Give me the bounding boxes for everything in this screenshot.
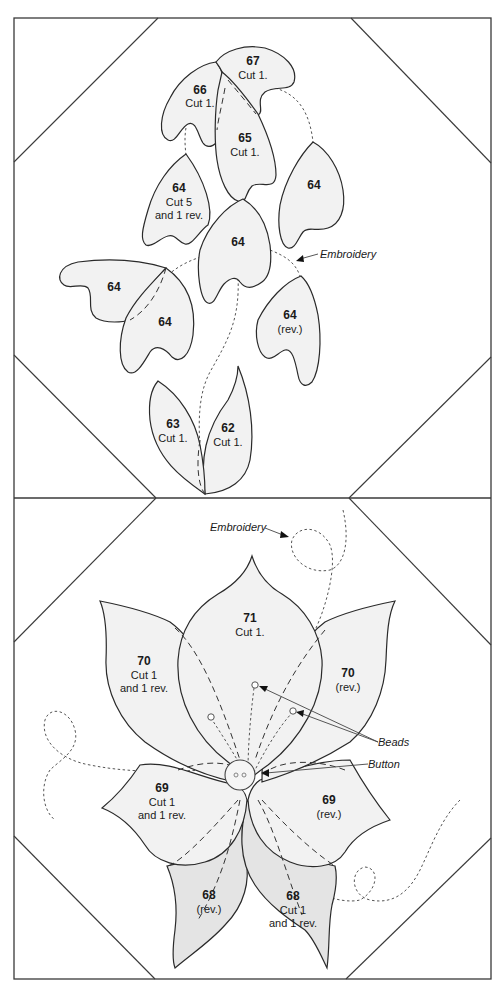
button-embellishment	[225, 760, 255, 790]
label-68-right-note2: and 1 rev.	[269, 917, 317, 929]
bottom-block: 71 Cut 1. 70 Cut 1 and 1 rev. 70 (rev.) …	[44, 510, 460, 968]
label-69-left-note2: and 1 rev.	[138, 809, 186, 821]
label-64-center: 64	[231, 235, 245, 249]
label-64-rev-number: 64	[283, 308, 297, 322]
label-69-right-number: 69	[322, 793, 336, 807]
label-62-note: Cut 1.	[213, 436, 242, 448]
label-70-left-number: 70	[137, 654, 151, 668]
label-68-right-number: 68	[286, 889, 300, 903]
arrow-icon	[280, 531, 289, 538]
applique-pattern-diagram: 67 Cut 1. 66 Cut 1. 65 Cut 1. 64 Cut 5 a…	[0, 0, 501, 992]
label-65-note: Cut 1.	[230, 146, 259, 158]
label-63-number: 63	[166, 417, 180, 431]
label-68-left-number: 68	[202, 888, 216, 902]
label-67-number: 67	[246, 54, 260, 68]
bead-right	[290, 708, 296, 714]
arrow-icon	[296, 255, 304, 262]
label-66-number: 66	[193, 83, 207, 97]
label-67-note: Cut 1.	[238, 69, 267, 81]
label-66-note: Cut 1.	[185, 97, 214, 109]
label-69-left-number: 69	[155, 781, 169, 795]
label-68-right-note: Cut 1	[280, 904, 306, 916]
callout-button: Button	[368, 758, 400, 770]
label-64-left-wing: 64	[107, 280, 121, 294]
label-64-rev-note: (rev.)	[278, 323, 303, 335]
label-62-number: 62	[221, 421, 235, 435]
label-70-left-note: Cut 1	[131, 669, 157, 681]
label-69-right-note: (rev.)	[317, 808, 342, 820]
label-68-left-note: (rev.)	[197, 903, 222, 915]
label-69-left-note: Cut 1	[149, 796, 175, 808]
bead-top	[252, 682, 258, 688]
piece-64-right-upper	[279, 142, 344, 248]
label-65-number: 65	[238, 131, 252, 145]
callout-beads: Beads	[378, 736, 410, 748]
label-64-cut5-note2: and 1 rev.	[155, 209, 203, 221]
label-64-cut5-note: Cut 5	[166, 196, 192, 208]
label-63-note: Cut 1.	[158, 432, 187, 444]
label-64-cut5-number: 64	[172, 181, 186, 195]
label-70-right-note: (rev.)	[336, 681, 361, 693]
label-71-note: Cut 1.	[235, 626, 264, 638]
label-64-lower-left: 64	[158, 315, 172, 329]
label-70-left-note2: and 1 rev.	[120, 682, 168, 694]
label-71-number: 71	[243, 611, 257, 625]
label-70-right-number: 70	[341, 666, 355, 680]
callout-embroidery-bottom: Embroidery	[210, 521, 268, 533]
label-64-right-upper: 64	[307, 178, 321, 192]
bead-left	[208, 714, 214, 720]
callout-embroidery-top: Embroidery	[320, 248, 378, 260]
top-block: 67 Cut 1. 66 Cut 1. 65 Cut 1. 64 Cut 5 a…	[60, 47, 378, 494]
